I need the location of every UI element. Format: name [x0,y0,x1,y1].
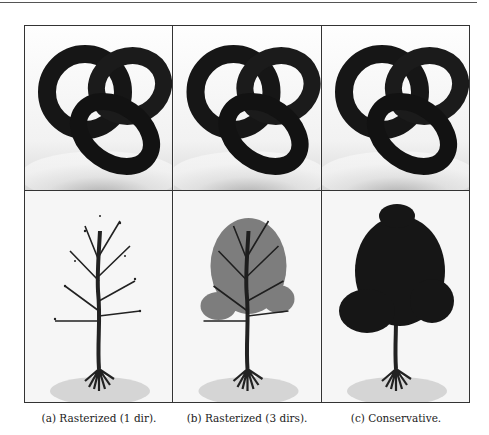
column-divider [321,26,322,402]
tree-render-conservative [322,191,469,402]
tree-render-rasterized-1-dir [25,191,172,402]
knot-render-conservative [322,26,469,190]
figure-grid [24,25,470,403]
column-divider [172,26,173,402]
caption-a: (a) Rasterized (1 dir). [24,412,174,424]
knot-render-rasterized-3-dirs [173,26,321,190]
knot-render-rasterized-1-dir [25,26,172,190]
tree-render-rasterized-3-dirs [173,191,321,402]
caption-b: (b) Rasterized (3 dirs). [172,412,322,424]
top-rule [0,2,477,3]
row-divider [25,190,469,191]
caption-c: (c) Conservative. [321,412,471,424]
